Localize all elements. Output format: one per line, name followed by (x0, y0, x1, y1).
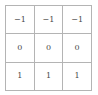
matrix-body: −1 −1 −1 0 0 0 1 1 1 (6, 6, 92, 91)
matrix-grid: −1 −1 −1 0 0 0 1 1 1 (5, 5, 92, 91)
matrix-cell-r0c2: −1 (63, 6, 92, 34)
matrix-cell-r2c1: 1 (34, 62, 63, 90)
matrix-cell-r2c0: 1 (6, 62, 35, 90)
matrix-cell-r1c2: 0 (63, 34, 92, 62)
matrix-cell-r2c2: 1 (63, 62, 92, 90)
table-row: 1 1 1 (6, 62, 92, 90)
matrix-canvas: −1 −1 −1 0 0 0 1 1 1 (0, 0, 98, 95)
matrix-cell-r0c1: −1 (34, 6, 63, 34)
matrix-cell-r1c1: 0 (34, 34, 63, 62)
table-row: 0 0 0 (6, 34, 92, 62)
matrix-cell-r0c0: −1 (6, 6, 35, 34)
table-row: −1 −1 −1 (6, 6, 92, 34)
matrix-cell-r1c0: 0 (6, 34, 35, 62)
